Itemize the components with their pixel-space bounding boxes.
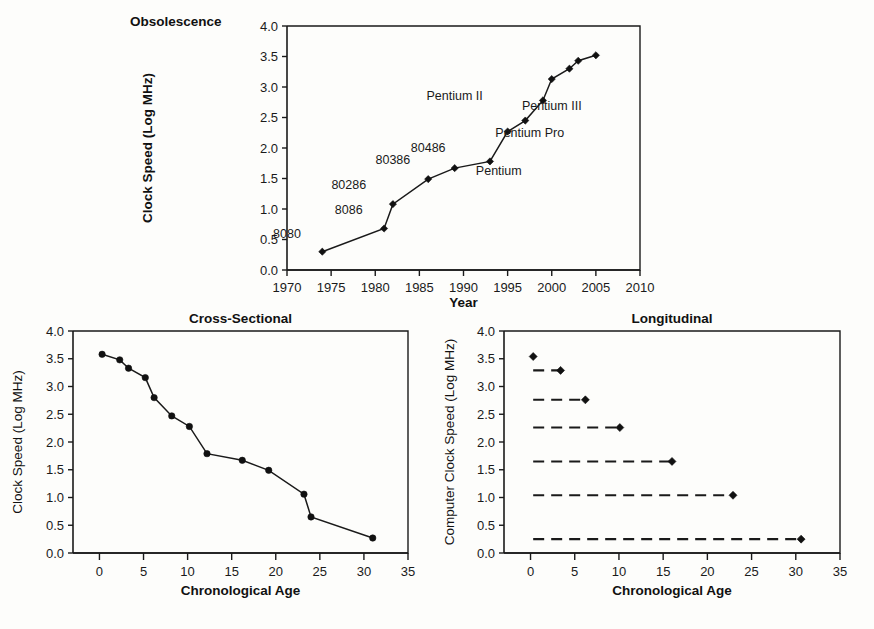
data-point-marker (151, 394, 157, 400)
longitudinal-chart-svg: Longitudinal0.00.51.01.52.02.53.03.54.00… (440, 310, 874, 629)
obsolescence-chart-svg: Obsolescence 0.00.51.01.52.02.53.03.54.0… (130, 4, 670, 310)
x-tick-label: 1980 (361, 280, 390, 295)
data-line (102, 354, 373, 538)
data-point-marker (592, 52, 599, 59)
data-point-marker (169, 413, 175, 419)
x-tick-label: 5 (140, 564, 147, 579)
annotation-pentium-iii: Pentium III (522, 99, 582, 113)
data-point-marker (125, 365, 131, 371)
y-tick-label: 0.0 (477, 546, 495, 561)
x-tick-label: 30 (357, 564, 371, 579)
data-point-marker (266, 467, 272, 473)
x-tick-label: 20 (269, 564, 283, 579)
x-tick-label: 20 (700, 564, 714, 579)
y-tick-label: 3.5 (477, 351, 495, 366)
cross-sectional-chart-svg: Cross-Sectional0.00.51.01.52.02.53.03.54… (4, 310, 434, 629)
chart-title-longitudinal: Longitudinal (632, 311, 713, 326)
y-tick-label: 0.5 (46, 518, 64, 533)
longitudinal-chart-panel: Longitudinal0.00.51.01.52.02.53.03.54.00… (440, 310, 874, 629)
y-tick-label: 0.0 (260, 263, 278, 278)
x-tick-label: 1995 (493, 280, 522, 295)
data-point-marker (797, 535, 805, 543)
plot-frame (287, 26, 640, 270)
y-tick-label: 2.0 (46, 435, 64, 450)
y-tick-label: 2.5 (477, 407, 495, 422)
data-point-marker (548, 75, 555, 82)
data-point-marker (380, 225, 387, 232)
y-tick-label: 2.5 (46, 407, 64, 422)
y-tick-label: 3.0 (46, 379, 64, 394)
x-axis-title-longitudinal: Chronological Age (612, 583, 732, 598)
x-tick-label: 10 (180, 564, 194, 579)
x-tick-label: 1970 (273, 280, 302, 295)
y-axis-title-cross-sectional: Clock Speed (Log MHz) (10, 370, 25, 513)
y-tick-label: 4.0 (260, 19, 278, 34)
longitudinal-plot-area: Longitudinal0.00.51.01.52.02.53.03.54.00… (442, 311, 847, 598)
y-axis-title-longitudinal: Computer Clock Speed (Log MHz) (442, 339, 457, 545)
y-tick-label: 3.0 (477, 379, 495, 394)
y-tick-label: 1.5 (46, 462, 64, 477)
y-tick-label: 2.0 (260, 141, 278, 156)
x-tick-label: 1985 (405, 280, 434, 295)
data-point-marker (729, 491, 737, 499)
annotation-8080: 8080 (273, 227, 301, 241)
data-point-marker (616, 424, 624, 432)
x-tick-label: 2000 (537, 280, 566, 295)
data-point-marker (451, 165, 458, 172)
annotation-pentium-ii: Pentium II (427, 89, 483, 103)
panel-label-obsolescence: Obsolescence (130, 14, 222, 29)
data-point-marker (529, 353, 537, 361)
cross-sectional-plot-area: Cross-Sectional0.00.51.01.52.02.53.03.54… (10, 311, 415, 598)
y-tick-label: 0.0 (46, 546, 64, 561)
y-tick-label: 2.5 (260, 110, 278, 125)
y-tick-label: 3.5 (260, 49, 278, 64)
y-tick-label: 0.5 (477, 518, 495, 533)
x-axis-title-cross-sectional: Chronological Age (181, 583, 301, 598)
data-line (322, 55, 596, 251)
annotation-pentium: Pentium (476, 164, 522, 178)
y-tick-label: 4.0 (46, 324, 64, 339)
data-point-marker (557, 366, 565, 374)
data-point-marker (142, 374, 148, 380)
x-tick-label: 0 (527, 564, 534, 579)
obsolescence-plot-area: 0.00.51.01.52.02.53.03.54.01970197519801… (140, 19, 654, 311)
x-tick-label: 25 (744, 564, 758, 579)
y-tick-label: 2.0 (477, 435, 495, 450)
y-tick-label: 4.0 (477, 324, 495, 339)
data-point-marker (308, 514, 314, 520)
plot-frame (73, 331, 408, 553)
y-tick-label: 1.5 (260, 171, 278, 186)
obsolescence-chart-panel: Obsolescence 0.00.51.01.52.02.53.03.54.0… (130, 4, 670, 310)
x-tick-label: 15 (656, 564, 670, 579)
y-axis-title-obsolescence: Clock Speed (Log MHz) (140, 73, 155, 223)
x-tick-label: 30 (789, 564, 803, 579)
x-tick-label: 15 (224, 564, 238, 579)
x-tick-label: 35 (833, 564, 847, 579)
x-tick-label: 2005 (581, 280, 610, 295)
data-point-marker (319, 248, 326, 255)
y-tick-label: 1.0 (477, 490, 495, 505)
cross-sectional-chart-panel: Cross-Sectional0.00.51.01.52.02.53.03.54… (4, 310, 434, 629)
x-tick-label: 10 (612, 564, 626, 579)
data-point-marker (239, 457, 245, 463)
x-tick-label: 2010 (626, 280, 655, 295)
data-point-marker (204, 450, 210, 456)
y-tick-label: 3.0 (260, 80, 278, 95)
data-point-marker (117, 357, 123, 363)
x-tick-label: 0 (96, 564, 103, 579)
annotation-80286: 80286 (331, 178, 366, 192)
chart-title-cross-sectional: Cross-Sectional (189, 311, 292, 326)
data-point-marker (370, 535, 376, 541)
data-point-marker (668, 457, 676, 465)
annotation-pentium-pro: Pentium Pro (495, 126, 564, 140)
data-point-marker (186, 423, 192, 429)
x-tick-label: 5 (571, 564, 578, 579)
data-point-marker (581, 396, 589, 404)
y-tick-label: 1.0 (260, 202, 278, 217)
plot-frame (504, 331, 840, 553)
y-tick-label: 1.5 (477, 462, 495, 477)
x-tick-label: 25 (313, 564, 327, 579)
y-tick-label: 3.5 (46, 351, 64, 366)
x-axis-title-obsolescence: Year (449, 295, 478, 310)
x-tick-label: 1990 (449, 280, 478, 295)
